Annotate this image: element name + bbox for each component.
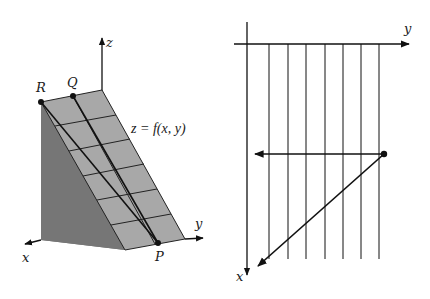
x-axis-label: x xyxy=(22,250,30,265)
z-axis-label: z xyxy=(105,35,113,50)
y-axis-label: y xyxy=(194,216,203,231)
label-Q: Q xyxy=(67,75,78,90)
surface-equation-label: z = f(x, y) xyxy=(130,121,186,137)
x-axis-label-top-view: x xyxy=(236,269,244,284)
x-axis xyxy=(25,240,41,244)
y-axis-label-top-view: y xyxy=(403,21,412,36)
right-2d-figure: y x xyxy=(234,21,412,284)
point-P xyxy=(155,240,161,246)
left-3d-figure: z x y R Q P xyxy=(22,35,203,265)
point-R xyxy=(38,99,44,105)
label-P: P xyxy=(154,249,164,264)
label-R: R xyxy=(35,80,46,95)
diagram-canvas: z x y R Q P xyxy=(0,0,430,299)
point-P-top-view xyxy=(381,151,387,157)
point-Q xyxy=(70,93,76,99)
vertical-grid-lines xyxy=(269,44,379,259)
y-axis xyxy=(185,238,203,239)
diagonal-arrow xyxy=(258,154,384,266)
